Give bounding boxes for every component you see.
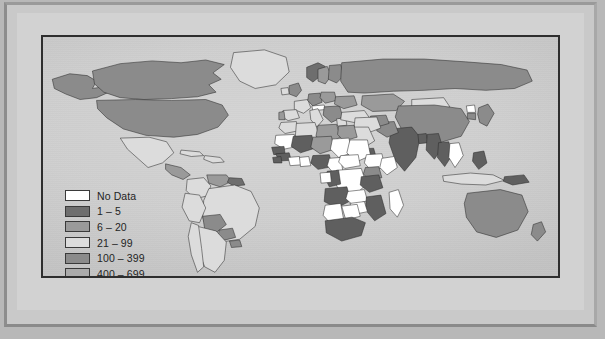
country-philippines[interactable]: [473, 151, 487, 169]
country-south-korea[interactable]: [467, 113, 475, 119]
legend-row: 1 – 5: [65, 204, 155, 220]
figure-mat: No Data1 – 56 – 2021 – 99100 – 399400 – …: [17, 13, 584, 310]
country-mozambique[interactable]: [365, 195, 386, 221]
country-greenland[interactable]: [230, 50, 289, 89]
legend-row: 21 – 99: [65, 235, 155, 251]
legend-swatch: [65, 206, 90, 217]
legend-swatch: [65, 237, 90, 248]
country-peru[interactable]: [182, 193, 206, 222]
country-central-america[interactable]: [166, 164, 191, 180]
legend-swatch: [65, 190, 90, 201]
country-vietnam[interactable]: [449, 143, 463, 168]
country-cuba[interactable]: [180, 150, 204, 156]
country-germany[interactable]: [308, 93, 322, 106]
legend-row: 400 – 699: [65, 266, 155, 278]
legend-swatch: [65, 268, 90, 278]
country-caribbean[interactable]: [204, 156, 225, 163]
country-sierra-leone[interactable]: [273, 157, 282, 163]
country-south-africa[interactable]: [325, 217, 365, 241]
page-background: No Data1 – 56 – 2021 – 99100 – 399400 – …: [0, 0, 605, 339]
country-united-states[interactable]: [97, 100, 229, 138]
legend-swatch: [65, 221, 90, 232]
country-russia[interactable]: [341, 59, 533, 93]
country-australia[interactable]: [464, 190, 528, 238]
country-united-kingdom[interactable]: [289, 83, 301, 97]
legend-swatch: [65, 253, 90, 264]
country-japan[interactable]: [478, 104, 494, 126]
country-canada[interactable]: [92, 60, 224, 100]
legend-label: 100 – 399: [97, 252, 145, 264]
country-guyanas[interactable]: [227, 178, 245, 186]
legend-row: 6 – 20: [65, 219, 155, 235]
map-legend: No Data1 – 56 – 2021 – 99100 – 399400 – …: [65, 188, 155, 278]
figure-outer-frame: No Data1 – 56 – 2021 – 99100 – 399400 – …: [4, 2, 597, 327]
country-madagascar[interactable]: [389, 190, 403, 218]
country-new-zealand[interactable]: [531, 222, 545, 241]
country-portugal[interactable]: [279, 111, 285, 119]
legend-label: 400 – 699: [97, 268, 145, 278]
country-papua-new-guinea[interactable]: [503, 175, 529, 185]
country-ghana[interactable]: [299, 157, 310, 167]
legend-label: 6 – 20: [97, 221, 127, 233]
legend-row: 100 – 399: [65, 250, 155, 266]
country-somalia[interactable]: [380, 157, 398, 175]
map-frame: No Data1 – 56 – 2021 – 99100 – 399400 – …: [41, 35, 560, 278]
country-poland[interactable]: [320, 92, 336, 103]
legend-label: 21 – 99: [97, 237, 133, 249]
country-north-korea[interactable]: [466, 105, 475, 112]
country-gabon[interactable]: [320, 172, 331, 183]
legend-label: 1 – 5: [97, 205, 121, 217]
legend-label: No Data: [97, 190, 136, 202]
country-indonesia[interactable]: [443, 173, 505, 185]
country-mexico[interactable]: [120, 137, 174, 167]
country-ireland[interactable]: [281, 88, 289, 95]
legend-row: No Data: [65, 188, 155, 204]
country-uruguay[interactable]: [229, 240, 241, 247]
